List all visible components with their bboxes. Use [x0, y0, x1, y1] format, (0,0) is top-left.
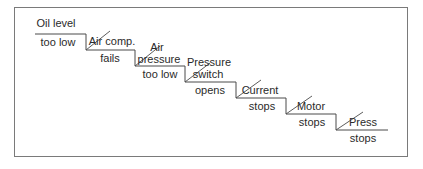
step-press-bottom: stops [350, 132, 377, 144]
step-motor-top: Motor [297, 100, 325, 112]
staircase-diagram: Oil level too low Air comp. fails Air pr… [0, 0, 423, 169]
step-air-comp-top: Air comp. [89, 35, 135, 47]
step-current-bottom: stops [249, 100, 276, 112]
step-air-pressure-bottom: too low [143, 68, 178, 80]
step-pressure-switch-top-1: Pressure [187, 56, 231, 68]
step-pressure-switch-top-2: switch [193, 68, 224, 80]
step-oil-level-bottom: too low [41, 36, 76, 48]
step-press-top: Press [349, 116, 378, 128]
step-motor-bottom: stops [299, 116, 326, 128]
step-oil-level-top: Oil level [36, 17, 75, 29]
step-air-pressure-top-2: pressure [138, 53, 181, 65]
step-air-pressure-top-1: Air [150, 41, 164, 53]
step-air-comp-bottom: fails [100, 52, 120, 64]
step-pressure-switch-bottom: opens [195, 84, 225, 96]
step-current-top: Current [242, 84, 279, 96]
